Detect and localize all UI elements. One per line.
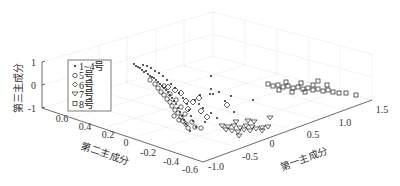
scatter-3d-chart: 1 0 -1 0.6 0.4 0.2 0 -0.2 -0.4 -0.6 -1.0… [0,0,400,186]
svg-text:-0.5: -0.5 [242,151,258,162]
svg-text:-0.4: -0.4 [163,156,179,167]
svg-text:-0.2: -0.2 [140,147,156,158]
svg-text:0.2: 0.2 [102,129,115,140]
svg-text:-1: -1 [28,103,36,114]
legend: 1~4号 5号 6号 7号 8号 [68,60,111,111]
svg-text:0: 0 [31,80,36,91]
series-1-4-dots [133,63,254,132]
svg-text:0.4: 0.4 [79,121,92,132]
z-axis-label: 第三主成分 [12,63,24,113]
svg-text:0: 0 [270,138,275,149]
x-axis-label: 第一主成分 [278,144,329,172]
svg-text:-0.6: -0.6 [182,164,198,175]
svg-text:1.0: 1.0 [339,117,352,128]
svg-text:0: 0 [124,137,129,148]
svg-text:-1.0: -1.0 [208,161,224,172]
svg-text:1: 1 [31,57,36,68]
svg-text:8号: 8号 [79,99,94,110]
z-tick-labels: 1 0 -1 [28,57,36,114]
svg-text:0.6: 0.6 [56,113,69,124]
svg-text:1.5: 1.5 [376,104,389,115]
svg-text:0.5: 0.5 [307,129,320,140]
series-8-squares [266,79,358,97]
